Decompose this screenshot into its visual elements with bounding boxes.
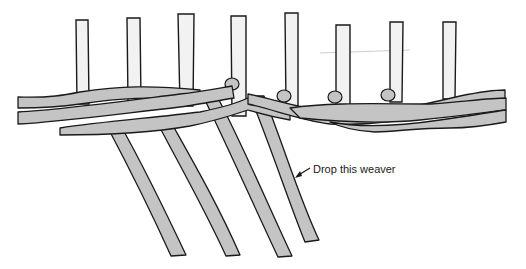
annotation-arrow <box>295 168 310 178</box>
stake-8 <box>443 22 456 99</box>
tail-3 <box>328 91 342 103</box>
weaving-diagram <box>0 0 526 269</box>
annotation-label: Drop this weaver <box>313 163 396 175</box>
tail-4 <box>381 89 395 101</box>
tail-2 <box>277 90 291 102</box>
